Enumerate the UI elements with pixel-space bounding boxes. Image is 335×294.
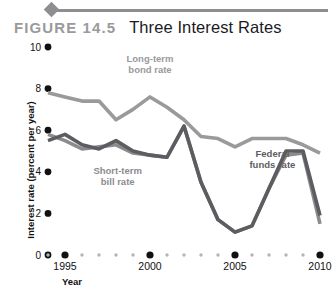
series-annotation: Short-termbill rate xyxy=(93,165,142,187)
series-line xyxy=(48,93,320,153)
x-axis-major-ticks xyxy=(61,251,323,258)
x-minor-tick-dot xyxy=(97,253,100,256)
y-tick-label: 4 xyxy=(35,166,41,177)
x-minor-tick-dot xyxy=(199,253,202,256)
x-minor-tick-dot xyxy=(131,253,134,256)
y-tick-label: 6 xyxy=(35,125,41,136)
x-minor-tick-dot xyxy=(114,253,117,256)
x-axis-minor-ticks xyxy=(46,253,304,256)
x-minor-tick-dot xyxy=(284,253,287,256)
y-tick-label: 0 xyxy=(35,250,41,261)
x-major-tick-dot xyxy=(146,251,153,258)
series-line xyxy=(48,126,320,232)
y-tick-label: 8 xyxy=(35,83,41,94)
x-minor-tick-dot xyxy=(182,253,185,256)
x-axis-tick-labels: 1995200020052010 xyxy=(53,260,332,272)
series-line xyxy=(48,126,320,232)
figure-container: FIGURE 14.5Three Interest Rates 0246810 … xyxy=(0,0,335,294)
x-minor-tick-dot xyxy=(165,253,168,256)
x-axis-title: Year xyxy=(62,276,82,287)
x-tick-label: 1995 xyxy=(53,260,77,272)
x-tick-label: 2000 xyxy=(138,260,162,272)
x-minor-tick-dot xyxy=(216,253,219,256)
x-minor-tick-dot xyxy=(80,253,83,256)
y-tick-dot xyxy=(45,44,52,51)
x-tick-label: 2010 xyxy=(308,260,332,272)
x-tick-label: 2005 xyxy=(223,260,247,272)
y-tick-label: 2 xyxy=(35,208,41,219)
line-chart: 0246810 1995200020052010 Long-termbond r… xyxy=(0,0,335,294)
x-major-tick-dot xyxy=(231,251,238,258)
x-minor-tick-dot xyxy=(301,253,304,256)
series-annotation: Long-termbond rate xyxy=(127,53,174,75)
chart-series-annotations: Long-termbond rateShort-termbill rateFed… xyxy=(93,53,295,187)
y-tick-dot xyxy=(45,168,52,175)
y-tick-dot xyxy=(45,127,52,134)
y-tick-dot xyxy=(45,85,52,92)
x-major-tick-dot xyxy=(61,251,68,258)
x-minor-tick-dot xyxy=(250,253,253,256)
series-annotation: Federalfunds rate xyxy=(249,148,295,170)
y-tick-dot xyxy=(45,210,52,217)
x-major-tick-dot xyxy=(316,251,323,258)
x-minor-tick-dot xyxy=(46,253,49,256)
x-minor-tick-dot xyxy=(267,253,270,256)
y-axis-title: Interest rate (percent per year) xyxy=(25,101,36,238)
y-tick-label: 10 xyxy=(30,42,42,53)
